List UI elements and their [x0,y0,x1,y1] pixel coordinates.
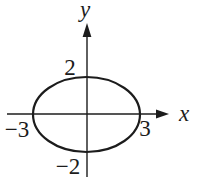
tick-label-y-top: 2 [64,55,76,80]
x-axis-arrowhead-icon [156,110,169,119]
y-axis-arrowhead-icon [83,23,92,37]
figure-canvas: y x 2 −2 −3 3 [0,0,197,184]
x-axis-label: x [178,101,190,126]
y-axis-label: y [78,0,91,22]
ellipse-graph: y x 2 −2 −3 3 [0,0,197,184]
tick-label-x-left: −3 [5,117,29,142]
tick-label-y-bottom: −2 [56,154,80,179]
tick-label-x-right: 3 [139,116,151,141]
